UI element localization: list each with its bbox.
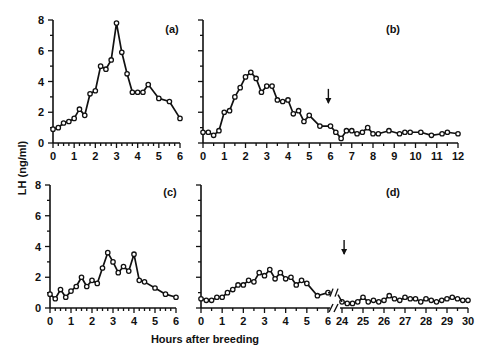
data-point [201, 130, 205, 134]
data-point [104, 67, 108, 71]
data-point [93, 89, 97, 93]
x-tick-label: 1 [221, 150, 227, 162]
data-point [51, 127, 55, 131]
x-tick-label: 5 [304, 315, 310, 327]
lh-figure: 024680123456(a)0123456789101112(b)024680… [0, 0, 486, 354]
data-point [215, 295, 219, 299]
y-axis-title: LH (ng/ml) [16, 140, 28, 195]
data-point [344, 129, 348, 133]
axis-break-mark [334, 304, 338, 312]
data-point [286, 98, 290, 102]
data-point [278, 270, 282, 274]
x-tick-label: 0 [47, 315, 53, 327]
data-point [350, 129, 354, 133]
data-point [302, 119, 306, 123]
data-point [445, 297, 449, 301]
arrow-down-icon [341, 240, 347, 255]
y-tick-label: 4 [35, 241, 42, 253]
data-point [345, 301, 349, 305]
data-point [259, 90, 263, 94]
data-point [257, 270, 261, 274]
data-point [403, 130, 407, 134]
data-point [413, 297, 417, 301]
data-point [377, 300, 381, 304]
x-tick-label: 7 [349, 150, 355, 162]
x-tick-label: 27 [399, 315, 411, 327]
data-point [387, 294, 391, 298]
data-point [163, 292, 167, 296]
data-point [167, 99, 171, 103]
data-point [220, 295, 224, 299]
data-point [58, 287, 62, 291]
data-break-mark [335, 289, 338, 297]
data-point [429, 298, 433, 302]
x-tick-label: 4 [283, 315, 290, 327]
data-point [206, 130, 210, 134]
data-point [64, 295, 68, 299]
data-point [74, 284, 78, 288]
data-point [79, 275, 83, 279]
data-point [265, 84, 269, 88]
data-point [77, 107, 81, 111]
y-tick-label: 6 [35, 210, 41, 222]
data-point [429, 133, 433, 137]
x-tick-label: 4 [285, 150, 292, 162]
data-point [178, 116, 182, 120]
x-tick-label: 2 [240, 315, 246, 327]
data-point [95, 281, 99, 285]
data-point [296, 109, 300, 113]
x-tick-label: 4 [131, 315, 138, 327]
data-point [466, 298, 470, 302]
x-tick-label: 25 [357, 315, 369, 327]
y-tick-label: 8 [35, 179, 41, 191]
x-tick-label: 9 [391, 150, 397, 162]
data-point [114, 21, 118, 25]
x-tick-label: 11 [431, 150, 443, 162]
data-point [280, 99, 284, 103]
x-tick-label: 5 [152, 315, 158, 327]
data-point [397, 132, 401, 136]
data-point [289, 275, 293, 279]
x-tick-label: 2 [242, 150, 248, 162]
data-point [109, 58, 113, 62]
x-tick-label: 2 [92, 150, 98, 162]
data-point [211, 133, 215, 137]
panel-label: (c) [163, 186, 177, 198]
x-tick-label: 3 [110, 315, 116, 327]
data-point [111, 260, 115, 264]
x-tick-label: 1 [71, 150, 77, 162]
data-point [233, 95, 237, 99]
data-point [246, 278, 250, 282]
data-point [424, 297, 428, 301]
data-point [125, 72, 129, 76]
data-point [455, 297, 459, 301]
data-point [408, 297, 412, 301]
y-tick-label: 4 [38, 76, 45, 88]
x-tick-label: 4 [135, 150, 142, 162]
x-tick-label: 24 [336, 315, 349, 327]
data-point [72, 116, 76, 120]
x-axis-title: Hours after breeding [151, 333, 259, 345]
data-point [157, 96, 161, 100]
x-tick-label: 6 [173, 315, 179, 327]
data-point [56, 125, 60, 129]
data-point [100, 266, 104, 270]
data-point [365, 125, 369, 129]
data-point [53, 297, 57, 301]
data-point [376, 132, 380, 136]
data-point [121, 264, 125, 268]
x-tick-label: 5 [156, 150, 162, 162]
data-point [318, 124, 322, 128]
x-tick-label: 12 [452, 150, 464, 162]
data-point [243, 75, 247, 79]
data-point [69, 289, 73, 293]
data-point [408, 130, 412, 134]
data-point [222, 110, 226, 114]
data-point [456, 132, 460, 136]
data-point [270, 84, 274, 88]
data-point [199, 297, 203, 301]
data-point [142, 280, 146, 284]
data-point [238, 85, 242, 89]
data-point [153, 286, 157, 290]
panel-label: (d) [386, 186, 400, 198]
